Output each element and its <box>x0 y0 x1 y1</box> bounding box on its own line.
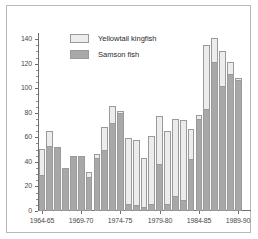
bar-segment-yellowtail-kingfish <box>180 120 187 201</box>
bar-segment-samson-fish <box>94 158 101 211</box>
bar-group <box>235 33 242 211</box>
bar-segment-samson-fish <box>227 74 234 211</box>
bar-segment-yellowtail-kingfish <box>117 111 124 113</box>
bar-segment-samson-fish <box>211 62 218 211</box>
y-axis-tick-label: 20 <box>7 182 32 189</box>
x-axis-tick-label: 1979-80 <box>148 217 172 225</box>
bar-group <box>211 33 218 211</box>
chart-legend: Yellowtail kingfish Samson fish <box>70 33 200 65</box>
y-axis-tick <box>35 211 38 212</box>
bar-segment-samson-fish <box>101 150 108 211</box>
bar-segment-samson-fish <box>54 147 61 211</box>
y-axis-tick-label: 80 <box>7 109 32 116</box>
bar-segment-samson-fish <box>203 109 210 211</box>
y-axis-tick-label: 40 <box>7 158 32 165</box>
bar-segment-yellowtail-kingfish <box>211 38 218 64</box>
bar-segment-samson-fish <box>70 156 77 211</box>
y-axis-tick-label: 0 <box>7 207 32 214</box>
legend-label-samson-fish: Samson fish <box>98 50 139 59</box>
bar-group <box>227 33 234 211</box>
bar-segment-samson-fish <box>62 168 69 211</box>
figure-frame: 020406080100120140 1964-651969-701974-75… <box>6 5 251 233</box>
bar-segment-yellowtail-kingfish <box>101 127 108 150</box>
y-axis-tick-label: 100 <box>7 84 32 91</box>
bar-segment-samson-fish <box>180 200 187 211</box>
x-axis-tick <box>81 211 82 214</box>
x-axis-tick <box>42 211 43 214</box>
x-axis-tick <box>160 211 161 214</box>
bar-segment-yellowtail-kingfish <box>188 129 195 161</box>
bar-segment-samson-fish <box>117 113 124 211</box>
bar-segment-samson-fish <box>125 204 132 211</box>
x-axis-tick-label: 1969-70 <box>69 217 93 225</box>
bar-segment-yellowtail-kingfish <box>125 138 132 204</box>
bar-segment-yellowtail-kingfish <box>156 116 163 165</box>
bar-segment-samson-fish <box>46 146 53 211</box>
bar-group <box>203 33 210 211</box>
legend-label-yellowtail-kingfish: Yellowtail kingfish <box>98 34 157 43</box>
y-axis-tick-label: 120 <box>7 60 32 67</box>
bar-segment-yellowtail-kingfish <box>196 115 203 120</box>
bar-segment-yellowtail-kingfish <box>39 149 46 176</box>
x-axis-tick <box>199 211 200 214</box>
bar-group <box>219 33 226 211</box>
bar-group <box>39 33 46 211</box>
x-axis-tick-label: 1964-65 <box>30 217 54 225</box>
bar-segment-samson-fish <box>164 204 171 211</box>
bar-group <box>62 33 69 211</box>
bar-segment-samson-fish <box>172 196 179 211</box>
x-axis-tick <box>238 211 239 214</box>
bar-segment-yellowtail-kingfish <box>164 131 171 205</box>
bar-segment-yellowtail-kingfish <box>235 78 242 80</box>
bar-segment-samson-fish <box>109 123 116 211</box>
bar-group <box>46 33 53 211</box>
chart-figure: 020406080100120140 1964-651969-701974-75… <box>0 0 258 239</box>
bar-segment-yellowtail-kingfish <box>46 131 53 147</box>
bar-segment-yellowtail-kingfish <box>133 140 140 206</box>
bar-group <box>243 33 250 211</box>
bar-segment-samson-fish <box>188 159 195 211</box>
bar-segment-samson-fish <box>156 164 163 211</box>
bar-segment-yellowtail-kingfish <box>141 158 148 208</box>
bar-segment-samson-fish <box>78 156 85 211</box>
bar-segment-yellowtail-kingfish <box>94 154 101 159</box>
legend-item-yellowtail-kingfish: Yellowtail kingfish <box>70 33 200 44</box>
bar-segment-samson-fish <box>86 177 93 211</box>
legend-swatch-yellowtail-kingfish <box>70 34 89 43</box>
bar-segment-samson-fish <box>235 80 242 211</box>
x-axis-tick-label: 1974-75 <box>108 217 132 225</box>
bar-segment-yellowtail-kingfish <box>203 45 210 110</box>
bar-segment-yellowtail-kingfish <box>219 51 226 87</box>
x-axis-tick-label: 1984-85 <box>187 217 211 225</box>
y-axis-tick-label: 140 <box>7 35 32 42</box>
legend-item-samson-fish: Samson fish <box>70 49 200 60</box>
bar-segment-yellowtail-kingfish <box>86 172 93 178</box>
bar-group <box>54 33 61 211</box>
bar-segment-yellowtail-kingfish <box>172 119 179 198</box>
bar-segment-yellowtail-kingfish <box>109 106 116 123</box>
bar-segment-samson-fish <box>148 204 155 211</box>
bar-segment-yellowtail-kingfish <box>148 136 155 205</box>
bar-segment-yellowtail-kingfish <box>227 62 234 74</box>
bar-segment-samson-fish <box>39 175 46 211</box>
legend-swatch-samson-fish <box>70 50 89 59</box>
x-axis-tick-label: 1989-90 <box>226 217 250 225</box>
bar-segment-samson-fish <box>196 119 203 211</box>
bar-segment-samson-fish <box>219 86 226 211</box>
x-axis-tick <box>120 211 121 214</box>
y-axis-tick-label: 60 <box>7 133 32 140</box>
